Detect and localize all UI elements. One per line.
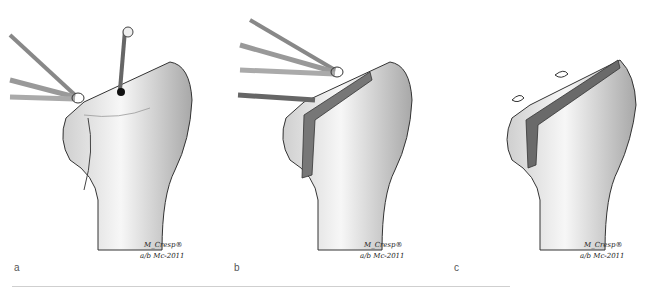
panel-label-c: c xyxy=(454,262,459,273)
panel-label-a: a xyxy=(14,262,20,273)
signature-name-a: M_Cresp® xyxy=(144,241,183,249)
panel-c: c M_Cresp® a/b Mc-2011 xyxy=(440,0,650,280)
bottom-divider xyxy=(12,286,510,287)
signature-name-c: M_Cresp® xyxy=(584,241,623,249)
panel-a: a M_Cresp® a/b Mc-2011 xyxy=(0,0,216,280)
signature-date-a: a/b Mc-2011 xyxy=(140,252,185,260)
bone-illustration-a xyxy=(0,0,216,280)
bone-illustration-b xyxy=(220,0,436,280)
panel-label-b: b xyxy=(234,262,240,273)
signature-date-c: a/b Mc-2011 xyxy=(580,252,625,260)
panel-b: b M_Cresp® a/b Mc-2011 xyxy=(220,0,436,280)
bone-illustration-c xyxy=(440,0,650,280)
signature-name-b: M_Cresp® xyxy=(364,241,403,249)
signature-date-b: a/b Mc-2011 xyxy=(360,252,405,260)
